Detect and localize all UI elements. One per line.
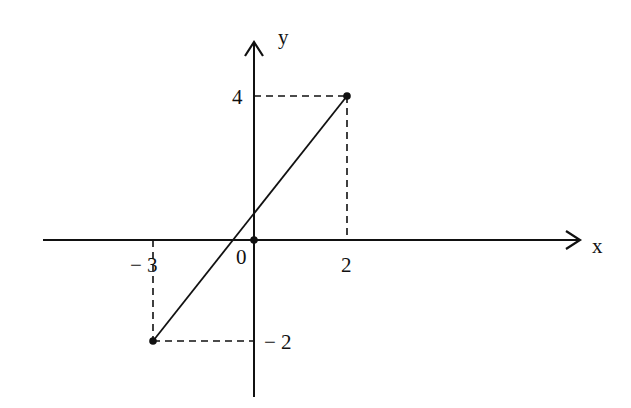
point-a (149, 337, 157, 345)
x-tick-label-2: 2 (341, 253, 352, 277)
y-tick-label-4: 4 (232, 85, 243, 109)
x-tick-label-neg3: − 3 (130, 253, 158, 277)
point-origin (250, 236, 258, 244)
y-axis-label: y (278, 25, 289, 49)
point-b (343, 92, 351, 100)
coordinate-diagram: y x 0 − 3 2 4 − 2 (0, 0, 631, 408)
y-tick-label-neg2: − 2 (264, 330, 292, 354)
x-axis-label: x (592, 234, 603, 258)
segment-ab (153, 96, 347, 341)
origin-label: 0 (236, 245, 247, 269)
x-axis (43, 231, 580, 249)
